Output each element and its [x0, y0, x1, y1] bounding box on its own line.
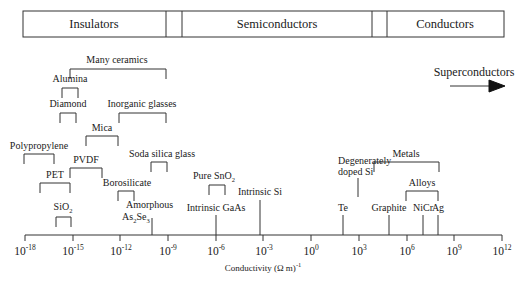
tick-label: 103 — [351, 243, 367, 257]
label-intrinsic-si: Intrinsic Si — [238, 186, 282, 197]
bracket — [56, 217, 71, 227]
bracket — [62, 88, 78, 98]
x-axis: 10-18 10-15 10-12 10-9 10-6 10-3 100 103… — [14, 235, 512, 273]
superconductors-annotation: Superconductors — [434, 65, 515, 92]
arrow-right-icon — [489, 80, 505, 92]
label-pure-sno2: Pure SnO2 — [193, 170, 235, 183]
range-borosilicate: Borosilicate — [103, 177, 152, 201]
range-diamond: Diamond — [49, 98, 86, 123]
bracket — [60, 113, 76, 123]
point-intrinsic-gaas: Intrinsic GaAs — [187, 202, 246, 235]
point-nicr: NiCr — [413, 202, 434, 235]
range-pet: PET — [40, 169, 70, 193]
range-polypropylene: Polypropylene — [10, 140, 69, 164]
range-mica: Mica — [86, 122, 118, 146]
point-ag: Ag — [432, 202, 444, 235]
bracket — [151, 162, 167, 172]
tick-label: 10-12 — [110, 243, 132, 257]
tick-label: 10-3 — [255, 243, 273, 257]
label-soda-silica-glass: Soda silica glass — [129, 148, 195, 159]
bracket — [70, 168, 102, 178]
label-graphite: Graphite — [372, 202, 408, 213]
tick-label: 10-9 — [159, 243, 177, 257]
axis-title: Conductivity (Ω m)-1 — [225, 261, 302, 273]
label-diamond: Diamond — [49, 98, 86, 109]
range-alloys: Alloys — [406, 177, 438, 201]
label-doped-si: doped Si — [338, 166, 374, 177]
label-te: Te — [338, 202, 348, 213]
range-inorganic-glasses: Inorganic glasses — [108, 98, 177, 123]
label-pvdf: PVDF — [73, 154, 99, 165]
tick-label: 109 — [446, 243, 462, 257]
range-soda-silica-glass: Soda silica glass — [129, 148, 195, 172]
label-alumina: Alumina — [53, 73, 89, 84]
bracket — [209, 185, 225, 195]
axis-ticks — [25, 235, 502, 241]
category-conductors: Conductors — [416, 17, 474, 31]
label-polypropylene: Polypropylene — [10, 140, 69, 151]
label-pet: PET — [46, 169, 64, 180]
category-header: Insulators Semiconductors Conductors — [23, 11, 504, 37]
label-nicr: NiCr — [413, 202, 434, 213]
point-te: Te — [338, 202, 348, 235]
point-degenerately-doped-si: Degenerately doped Si — [338, 155, 391, 197]
bracket — [40, 183, 70, 193]
tick-label: 10-6 — [207, 243, 225, 257]
label-borosilicate: Borosilicate — [103, 177, 152, 188]
tick-label: 106 — [399, 243, 415, 257]
conductivity-diagram: Insulators Semiconductors Conductors Sup… — [0, 0, 527, 285]
label-inorganic-glasses: Inorganic glasses — [108, 98, 177, 109]
category-semiconductors: Semiconductors — [237, 17, 318, 31]
bracket — [86, 136, 118, 146]
label-alloys: Alloys — [409, 177, 436, 188]
label-ag: Ag — [432, 202, 444, 213]
label-sio2: SiO2 — [54, 201, 73, 214]
label-mica: Mica — [92, 122, 113, 133]
tick-label: 100 — [303, 243, 319, 257]
range-sio2: SiO2 — [54, 201, 73, 227]
range-alumina: Alumina — [53, 73, 89, 98]
point-amorphous-as2se3: Amorphous As2Se3 — [122, 199, 173, 235]
label-amorphous: Amorphous — [126, 199, 173, 210]
tick-label: 10-18 — [14, 243, 36, 257]
label-many-ceramics: Many ceramics — [86, 54, 147, 65]
point-graphite: Graphite — [372, 202, 408, 235]
bracket — [24, 154, 54, 164]
label-intrinsic-gaas: Intrinsic GaAs — [187, 202, 246, 213]
tick-label: 10-15 — [62, 243, 84, 257]
range-pure-sno2: Pure SnO2 — [193, 170, 235, 195]
superconductors-label: Superconductors — [434, 65, 515, 79]
category-insulators: Insulators — [69, 17, 118, 31]
label-metals: Metals — [392, 148, 419, 159]
label-degenerately: Degenerately — [338, 155, 391, 166]
tick-labels: 10-18 10-15 10-12 10-9 10-6 10-3 100 103… — [14, 243, 512, 257]
range-pvdf: PVDF — [70, 154, 102, 178]
bracket — [406, 191, 438, 201]
label-as2se3: As2Se3 — [122, 211, 150, 224]
tick-label: 1012 — [493, 243, 512, 257]
bracket — [119, 113, 166, 123]
